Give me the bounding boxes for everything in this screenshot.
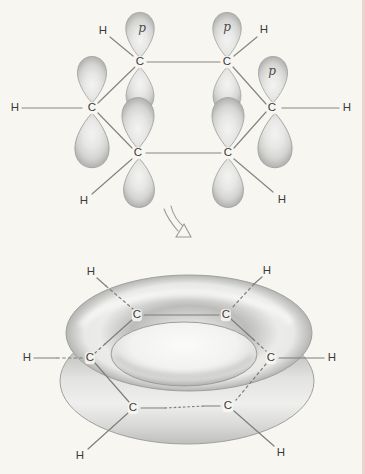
p-orbital-lobe — [124, 158, 155, 207]
p-orbital-lobe — [126, 12, 155, 58]
p-orbital-lobe — [258, 56, 287, 103]
p-orbital-lobe — [258, 113, 292, 168]
p-orbital-lobe — [77, 56, 106, 103]
pi-cloud-tori — [60, 275, 314, 444]
p-orbital-lobes — [75, 12, 292, 207]
p-orbital-lobe — [75, 113, 109, 168]
sigma-bond-lines-top — [22, 37, 339, 194]
benzene-orbital-figure: C C C C C C H H H H H H p p p C C C C C … — [0, 0, 365, 474]
figure-artwork — [0, 0, 365, 474]
p-orbital-lobe — [122, 98, 154, 149]
p-orbital-lobe — [213, 158, 244, 207]
p-orbital-lobe — [213, 12, 242, 58]
becomes-arrow-icon — [164, 206, 191, 237]
